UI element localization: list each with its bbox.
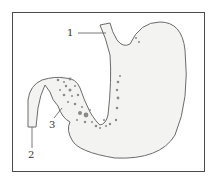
label-1: 1 [67, 28, 73, 38]
label-3: 3 [49, 120, 55, 130]
label-2: 2 [28, 150, 34, 160]
stomach-outline [28, 22, 186, 158]
